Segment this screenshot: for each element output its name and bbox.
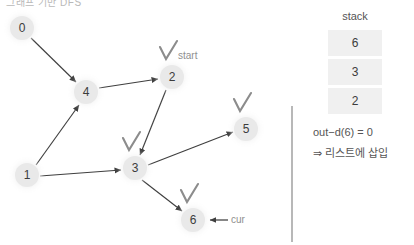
start-label: start — [178, 50, 197, 61]
graph-node-6-label: 6 — [190, 213, 197, 227]
graph-node-1-label: 1 — [24, 168, 31, 182]
stack-cell-top[interactable]: 6 — [328, 30, 382, 56]
check-icon-node-3 — [123, 132, 140, 150]
edge-4-2 — [99, 79, 158, 88]
graph-node-2-label: 2 — [169, 70, 176, 84]
edge-1-4 — [36, 105, 79, 165]
graph-node-1[interactable]: 1 — [15, 163, 39, 187]
graph-node-5[interactable]: 5 — [234, 117, 258, 141]
graph-node-2[interactable]: 2 — [160, 65, 184, 89]
graph-node-4-label: 4 — [83, 85, 90, 99]
graph-node-3[interactable]: 3 — [123, 156, 147, 180]
stack-title: stack — [328, 10, 382, 22]
graph-node-3-label: 3 — [132, 161, 139, 175]
check-icon-node-2 — [160, 41, 177, 59]
stack-cell-bottom[interactable]: 2 — [328, 88, 382, 114]
graph-node-0-label: 0 — [19, 21, 26, 35]
graph-node-0[interactable]: 0 — [10, 16, 34, 40]
stack-cell-middle[interactable]: 3 — [328, 59, 382, 85]
edge-0-4 — [31, 38, 76, 82]
check-icon-node-5 — [234, 93, 251, 111]
stack-cell-bottom-value: 2 — [352, 94, 359, 108]
edge-1-3 — [40, 170, 121, 176]
edge-2-3 — [140, 90, 166, 155]
edge-3-5 — [148, 132, 233, 165]
check-icon-node-6 — [181, 184, 198, 202]
note-insert-list: ⇒ 리스트에 삽입 — [313, 144, 388, 160]
visited-checkmarks — [123, 41, 251, 202]
cur-label: cur — [231, 214, 245, 225]
graph-node-4[interactable]: 4 — [74, 80, 98, 104]
stack-cell-middle-value: 3 — [352, 65, 359, 79]
edge-3-6 — [142, 180, 182, 211]
stack-cell-top-value: 6 — [352, 36, 359, 50]
note-out-degree: out−d(6) = 0 — [313, 126, 373, 138]
graph-node-5-label: 5 — [243, 122, 250, 136]
graph-edges — [31, 38, 233, 211]
graph-node-6[interactable]: 6 — [181, 208, 205, 232]
